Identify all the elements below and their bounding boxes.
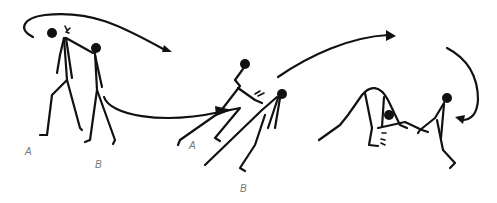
motion-arrow-2 bbox=[104, 97, 232, 118]
figure-b-panel-1 bbox=[66, 38, 115, 144]
throw-sequence-illustration: A B A B bbox=[0, 0, 497, 203]
label-b-panel-1: B bbox=[95, 159, 102, 170]
label-a-panel-1: A bbox=[25, 146, 32, 157]
label-b-panel-2: B bbox=[240, 183, 247, 194]
figure-b-panel-2 bbox=[205, 89, 287, 171]
label-a-panel-2: A bbox=[189, 140, 196, 151]
motion-arrow-3 bbox=[278, 30, 396, 77]
figure-a-panel-2 bbox=[178, 59, 264, 145]
illustration-svg bbox=[0, 0, 497, 203]
motion-arrow-4 bbox=[447, 48, 478, 124]
figure-a-panel-3 bbox=[319, 88, 428, 146]
